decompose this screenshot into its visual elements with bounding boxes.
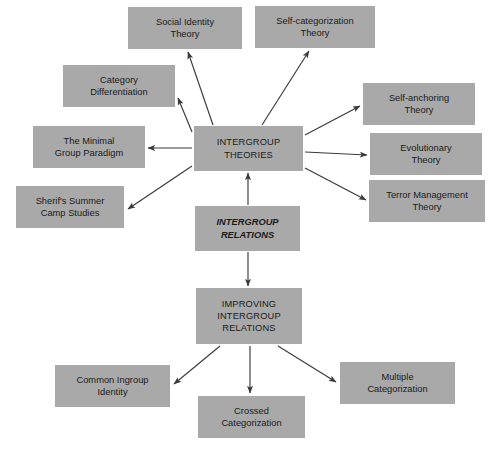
node-label-multiple-categorization: Multiple Categorization [367,371,427,395]
node-label-intergroup-theories: INTERGROUP THEORIES [217,136,280,160]
node-label-improving-intergroup-relations: IMPROVING INTERGROUP RELATIONS [217,298,280,335]
arrow-theories-to-sherif [128,166,192,209]
arrow-theories-to-evolutionary [305,152,367,155]
arrow-theories-to-self-categorization [262,51,309,125]
node-improving-intergroup-relations: IMPROVING INTERGROUP RELATIONS [196,288,302,344]
arrow-improving-to-common-ingroup [174,346,220,384]
node-common-ingroup-identity: Common Ingroup Identity [55,365,170,407]
node-sherifs-summer-camp-studies: Sherif's Summer Camp Studies [16,186,124,228]
arrow-theories-to-category-differentiation [178,98,192,132]
node-category-differentiation: Category Differentiation [63,65,175,107]
node-multiple-categorization: Multiple Categorization [340,362,455,404]
node-label-social-identity-theory: Social Identity Theory [156,16,214,40]
diagram-canvas: Social Identity TheorySelf-categorizatio… [0,0,501,451]
node-intergroup-relations: INTERGROUP RELATIONS [195,206,300,251]
node-label-self-categorization-theory: Self-categorization Theory [276,15,353,39]
node-terror-management-theory: Terror Management Theory [369,180,485,222]
arrow-theories-to-terror-management [305,168,366,200]
node-label-self-anchoring-theory: Self-anchoring Theory [389,92,449,116]
node-label-intergroup-relations: INTERGROUP RELATIONS [216,216,278,240]
arrow-theories-to-social-identity [188,52,213,125]
arrow-theories-to-self-anchoring [305,106,360,135]
node-label-the-minimal-group-paradigm: The Minimal Group Paradigm [55,135,124,159]
node-self-anchoring-theory: Self-anchoring Theory [363,83,475,125]
node-label-common-ingroup-identity: Common Ingroup Identity [76,374,148,398]
node-self-categorization-theory: Self-categorization Theory [255,6,375,48]
arrow-improving-to-multiple [278,346,336,382]
node-crossed-categorization: Crossed Categorization [198,396,305,438]
node-label-sherifs-summer-camp-studies: Sherif's Summer Camp Studies [36,195,105,219]
node-the-minimal-group-paradigm: The Minimal Group Paradigm [33,126,145,168]
node-label-crossed-categorization: Crossed Categorization [221,405,281,429]
node-label-category-differentiation: Category Differentiation [90,74,148,98]
node-intergroup-theories: INTERGROUP THEORIES [194,126,303,171]
node-social-identity-theory: Social Identity Theory [128,7,242,49]
node-evolutionary-theory: Evolutionary Theory [370,133,482,175]
node-label-evolutionary-theory: Evolutionary Theory [400,142,451,166]
node-label-terror-management-theory: Terror Management Theory [386,189,467,213]
